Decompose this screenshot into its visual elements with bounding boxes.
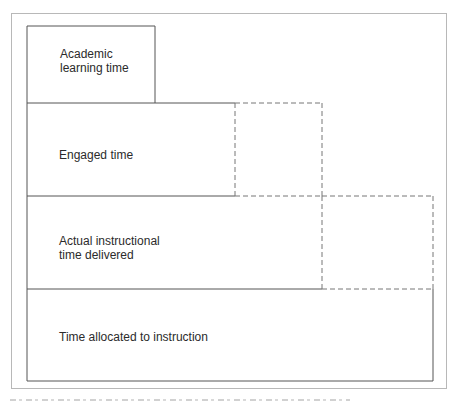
actual-instructional-time-label: Actual instructional time delivered bbox=[59, 234, 160, 262]
solid-outlines bbox=[27, 26, 433, 381]
label-line: learning time bbox=[60, 61, 129, 75]
label-line: Academic bbox=[60, 47, 129, 61]
label-line: Engaged time bbox=[59, 148, 133, 162]
label-line: Actual instructional bbox=[59, 234, 160, 248]
academic-learning-time-label: Academic learning time bbox=[60, 47, 129, 75]
label-line: Time allocated to instruction bbox=[59, 330, 208, 344]
engaged-time-label: Engaged time bbox=[59, 148, 133, 162]
time-allocated-label: Time allocated to instruction bbox=[59, 330, 208, 344]
clipped-caption bbox=[10, 398, 350, 402]
label-line: time delivered bbox=[59, 248, 160, 262]
dashed-extensions bbox=[235, 103, 433, 289]
